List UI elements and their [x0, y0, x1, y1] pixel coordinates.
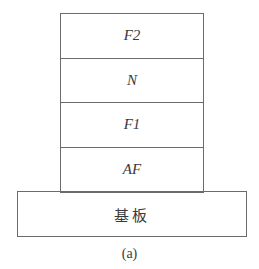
layer-label: N	[127, 72, 137, 89]
layer-label: F2	[124, 27, 141, 44]
layer-f1: F1	[60, 102, 204, 147]
substrate-label: 基板	[114, 204, 150, 225]
layer-n: N	[60, 58, 204, 103]
layer-af: AF	[60, 147, 204, 193]
layer-f2: F2	[60, 13, 204, 58]
layer-stack: F2 N F1 AF	[60, 13, 204, 193]
figure-caption: (a)	[0, 246, 259, 262]
layer-label: AF	[123, 161, 141, 178]
substrate-layer: 基板	[17, 191, 247, 237]
layer-label: F1	[124, 116, 141, 133]
